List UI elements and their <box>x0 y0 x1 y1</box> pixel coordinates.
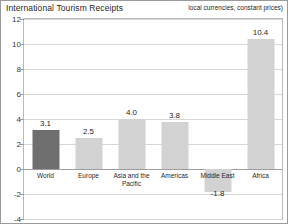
y-axis-tick-label: 4 <box>3 115 21 124</box>
bar-value-label: 4.0 <box>126 108 137 117</box>
bar-value-label: 2.5 <box>83 127 94 136</box>
bar-group: 2.5Europe <box>67 19 110 219</box>
x-axis-category-label: Africa <box>235 172 287 180</box>
y-tick-mark <box>20 219 24 220</box>
y-axis-tick-label: -2 <box>3 190 21 199</box>
y-axis-tick-label: 8 <box>3 65 21 74</box>
bar[interactable] <box>75 138 102 169</box>
bar-group: -1.8Middle East <box>196 19 239 219</box>
bar-group: 3.8Americas <box>153 19 196 219</box>
y-axis-tick-label: 10 <box>3 40 21 49</box>
bar[interactable] <box>161 122 188 170</box>
bar-value-label: -1.8 <box>211 189 225 198</box>
bar-value-label: 3.1 <box>40 119 51 128</box>
bar[interactable] <box>118 119 145 169</box>
gridline <box>24 219 282 220</box>
y-axis: 121086420-2-4 <box>1 18 21 220</box>
plot-frame: 3.1World2.5Europe4.0Asia and the Pacific… <box>23 18 283 220</box>
bar-group: 4.0Asia and the Pacific <box>110 19 153 219</box>
page-title: International Tourism Receipts <box>6 3 123 13</box>
y-axis-tick-label: -4 <box>3 215 21 224</box>
bar-group: 3.1World <box>24 19 67 219</box>
bar[interactable] <box>247 39 274 169</box>
bar[interactable] <box>32 130 59 169</box>
bar-value-label: 3.8 <box>169 111 180 120</box>
chart-figure: International Tourism Receipts local cur… <box>0 0 288 224</box>
y-axis-tick-label: 0 <box>3 165 21 174</box>
plot-area: 3.1World2.5Europe4.0Asia and the Pacific… <box>24 19 282 219</box>
bar-group: 10.4Africa <box>239 19 282 219</box>
bar-value-label: 10.4 <box>253 28 269 37</box>
y-axis-tick-label: 12 <box>3 15 21 24</box>
y-axis-tick-label: 6 <box>3 90 21 99</box>
chart-subtitle: local currencies, constant prices) <box>188 4 283 11</box>
y-axis-tick-label: 2 <box>3 140 21 149</box>
